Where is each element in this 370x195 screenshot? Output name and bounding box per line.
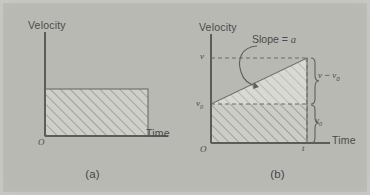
brace-label-minus: − — [322, 70, 332, 80]
brace-label-v0-sub: 0 — [336, 75, 339, 82]
brace-label-v-minus-v0: v − v0 — [318, 71, 340, 82]
panel-a: Velocity Time O (a) — [0, 0, 185, 195]
shaded-rectangle-b-hatch — [211, 104, 307, 143]
panel-a-caption: (a) — [0, 168, 185, 180]
panel-b-caption: (b) — [185, 168, 370, 180]
panel-a-x-axis-label: Time — [146, 128, 170, 139]
brace-label-v0: v0 — [315, 116, 322, 127]
slope-annotation: Slope = a — [252, 34, 296, 46]
panel-b-x-axis-label: Time — [332, 135, 356, 146]
figure-container: Velocity Time O (a) — [0, 0, 370, 195]
panel-b-y-tick-v: v — [200, 52, 204, 61]
brace-label-v0-lower-sub: 0 — [319, 121, 322, 127]
panel-b-y-tick-v0-sub: 0 — [200, 104, 203, 110]
panel-b-y-axis-label: Velocity — [199, 22, 237, 33]
panel-a-y-axis-label: Velocity — [28, 20, 66, 31]
slope-leader-line — [240, 46, 257, 86]
slope-annotation-value: a — [291, 34, 296, 45]
panel-b-y-tick-v0: v0 — [196, 99, 203, 110]
panel-b: Velocity Time O v v0 t Slope = a v − v0 … — [185, 0, 370, 195]
shaded-rectangle-a-hatch — [45, 89, 148, 136]
panel-b-origin-label: O — [200, 145, 207, 154]
panel-b-x-tick-t: t — [302, 144, 305, 153]
panel-a-origin-label: O — [38, 138, 45, 147]
slope-annotation-prefix: Slope = — [252, 33, 291, 45]
